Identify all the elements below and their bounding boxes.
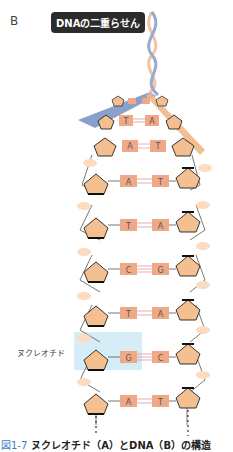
figure-caption: 図1-7ヌクレオチド（A）とDNA（B）の構造 — [1, 437, 211, 452]
svg-text:C: C — [126, 266, 132, 275]
svg-text:T: T — [155, 142, 161, 151]
svg-text:G: G — [157, 266, 163, 275]
helix-top — [149, 12, 158, 95]
svg-text:C: C — [158, 354, 164, 363]
svg-text:A: A — [126, 398, 132, 407]
base-pair-row-6: A T — [84, 388, 200, 414]
svg-text:T: T — [123, 117, 129, 126]
base-pair-row-1: A T — [84, 168, 200, 194]
base-pair-row-2: T A — [84, 212, 200, 238]
svg-text:T: T — [157, 398, 163, 407]
svg-text:T: T — [125, 310, 131, 319]
top-pair-2: A T — [94, 138, 194, 156]
backbone-right — [187, 155, 205, 425]
caption-text: ヌクレオチド（A）とDNA（B）の構造 — [31, 440, 211, 451]
base-pair-row-3: C G — [84, 256, 200, 282]
svg-text:G: G — [125, 354, 131, 363]
svg-text:A: A — [126, 178, 132, 187]
svg-text:A: A — [149, 117, 155, 126]
base-pair-row-4: T A — [84, 300, 200, 326]
svg-text:A: A — [158, 222, 164, 231]
svg-text:A: A — [127, 142, 133, 151]
nucleotide-label: ヌクレオチド — [17, 347, 65, 358]
svg-text:T: T — [125, 222, 131, 231]
continuation-dots — [96, 410, 188, 436]
svg-text:A: A — [158, 310, 164, 319]
svg-text:T: T — [157, 178, 163, 187]
figure-number: 図1-7 — [1, 440, 27, 451]
